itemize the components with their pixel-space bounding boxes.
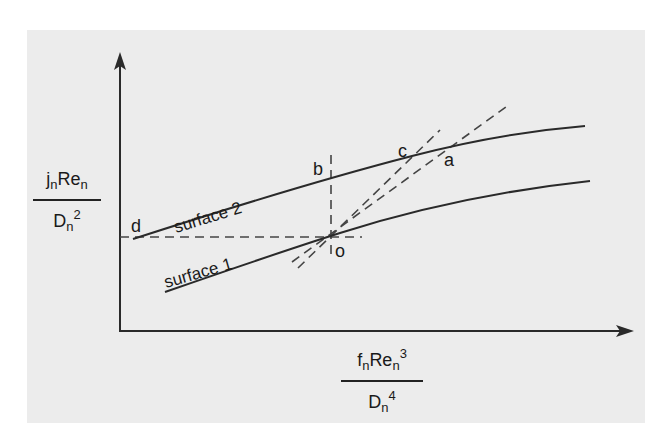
- reference-lines: [120, 104, 510, 268]
- point-c-label: c: [398, 141, 407, 161]
- surface-2-label: surface 2: [172, 198, 244, 237]
- dashed-line-o-c: [298, 130, 440, 268]
- point-o-label: o: [335, 241, 345, 261]
- x-axis-label-numerator: fnRen3: [341, 343, 423, 377]
- point-d-label: d: [131, 216, 141, 236]
- y-axis-fraction-bar: [33, 199, 101, 201]
- surface-1-label: surface 1: [162, 254, 234, 292]
- x-axis-label: fnRen3 Dn4: [341, 343, 423, 419]
- y-axis-label-denominator: Dn2: [33, 204, 101, 238]
- point-b-label: b: [313, 159, 323, 179]
- point-a-label: a: [444, 150, 455, 170]
- x-axis-fraction-bar: [341, 380, 423, 382]
- y-axis-label-numerator: jnRen: [33, 168, 101, 196]
- x-axis-label-denominator: Dn4: [341, 385, 423, 419]
- y-axis-label: jnRen Dn2: [33, 168, 101, 238]
